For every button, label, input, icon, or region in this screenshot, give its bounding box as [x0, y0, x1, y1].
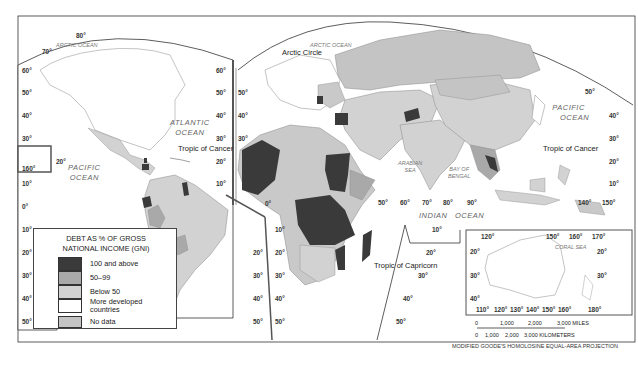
lon-160-label: 160°: [22, 165, 35, 172]
tropic-of-cancer-right: Tropic of Cancer: [543, 144, 598, 153]
legend-title: DEBT AS % OF GROSS NATIONAL INCOME (GNI): [34, 234, 178, 254]
lon-80: 80°: [443, 199, 453, 206]
projection-note: MODIFIED GOODE'S HOMOLOSINE EQUAL-AREA P…: [452, 343, 618, 349]
lat-midl-30: 30°: [216, 135, 226, 142]
arctic-circle-label: Arctic Circle: [282, 48, 322, 57]
lat-80-label: 80°: [76, 32, 86, 39]
lat-left-60: 60°: [22, 67, 32, 74]
arabian-line1: ARABIAN: [398, 160, 422, 167]
pacific-ocean-left-label: PACIFIC OCEAN: [68, 163, 101, 183]
indian-ocean-label-2: OCEAN: [455, 211, 484, 221]
lat-left-40: 40°: [22, 112, 32, 119]
scale-miles-3000: 3,000 MILES: [557, 320, 589, 326]
lat-africa-30s: 30°: [275, 272, 285, 279]
lat-midl-30s: 30°: [253, 272, 263, 279]
aus-lon-140: 140°: [526, 306, 539, 313]
pacific-left-line2: OCEAN: [68, 173, 101, 183]
lat-right-50: 50°: [585, 88, 595, 95]
lat-left-30s: 30°: [22, 272, 32, 279]
scale-km-0: 0: [475, 332, 478, 338]
legend-swatch-100-above: [58, 257, 82, 271]
coral-sea-label: CORAL SEA: [555, 244, 586, 251]
aus-lon-120-top: 120°: [481, 233, 494, 240]
bengal-line1: BAY OF: [448, 166, 470, 173]
lat-right-10: 10°: [609, 180, 619, 187]
pacific-right-line1: PACIFIC: [548, 103, 589, 113]
lat-midr-40: 40°: [238, 112, 248, 119]
legend-swatch-more-developed: [58, 299, 82, 313]
aus-lon-130: 130°: [510, 306, 523, 313]
aus-lon-170-top: 170°: [592, 233, 605, 240]
lat-midl-50: 50°: [216, 89, 226, 96]
lon-140: 140°: [578, 199, 591, 206]
legend-label-more-developed: More developed countries: [90, 298, 142, 314]
lat-left-30: 30°: [22, 135, 32, 142]
legend-label-50-99: 50–99: [90, 274, 110, 282]
indian-lat-50: 50°: [396, 318, 406, 325]
lat-africa-10s: 10°: [275, 226, 285, 233]
lat-africa-40s: 40°: [275, 295, 285, 302]
lat-20-pac: 20°: [56, 158, 66, 165]
aus-lon-180: 180°: [588, 306, 601, 313]
lat-midl-20: 20°: [216, 158, 226, 165]
lat-left-10s: 10°: [22, 226, 32, 233]
lat-midl-10: 10°: [216, 180, 226, 187]
aus-lat-20-right: 20°: [597, 248, 607, 255]
lat-africa-20s: 20°: [275, 249, 285, 256]
legend-swatch-no-data: [58, 316, 82, 328]
aus-lat-30-right: 30°: [597, 272, 607, 279]
lat-left-0: 0°: [22, 203, 28, 210]
lat-right-20: 20°: [609, 158, 619, 165]
lat-midr-50: 50°: [238, 89, 248, 96]
aus-lon-110: 110°: [476, 306, 489, 313]
aus-lon-150: 150°: [542, 306, 555, 313]
pacific-ocean-right-label: PACIFIC OCEAN: [548, 103, 589, 123]
aus-lon-160: 160°: [558, 306, 571, 313]
lat-left-10n: 10°: [22, 180, 32, 187]
aus-lat-20-left: 20°: [470, 248, 480, 255]
aus-lat-30-left: 30°: [470, 272, 480, 279]
legend-more-dev-line2: countries: [90, 306, 142, 314]
legend-title-line2: NATIONAL INCOME (GNI): [34, 244, 178, 254]
lat-midl-40s: 40°: [253, 295, 263, 302]
aus-lon-120: 120°: [494, 306, 507, 313]
pacific-left-line1: PACIFIC: [68, 163, 101, 173]
lat-midl-40: 40°: [216, 112, 226, 119]
lat-left-50s: 50°: [22, 318, 32, 325]
aus-lon-160-top: 160°: [569, 233, 582, 240]
lon-60: 60°: [400, 199, 410, 206]
scale-km-1000: 1,000: [485, 332, 499, 338]
lat-right-40: 40°: [609, 112, 619, 119]
legend-label-100-above: 100 and above: [90, 260, 138, 268]
legend-swatch-below-50: [58, 285, 82, 299]
lon-70: 70°: [422, 199, 432, 206]
bay-of-bengal-label: BAY OF BENGAL: [448, 166, 470, 180]
lat-right-30: 30°: [609, 135, 619, 142]
lat-africa-50s: 50°: [275, 318, 285, 325]
indian-ocean-label-1: INDIAN: [419, 211, 447, 221]
lon-150: 150°: [602, 199, 615, 206]
tropic-of-capricorn: Tropic of Capricorn: [374, 261, 438, 270]
scale-miles-1000: 1,000: [500, 320, 514, 326]
indian-lat-30: 30°: [418, 272, 428, 279]
zero-a: 0°: [265, 200, 271, 207]
indian-lat-40: 40°: [403, 295, 413, 302]
lat-70-label: 70°: [42, 48, 52, 55]
lat-midl-60: 60°: [216, 67, 226, 74]
atlantic-ocean-line1: ATLANTIC: [170, 118, 210, 128]
scale-km-2000: 2,000: [505, 332, 519, 338]
lon-50: 50°: [378, 199, 388, 206]
aus-lon-150-top: 150°: [546, 233, 559, 240]
atlantic-ocean-label: ATLANTIC OCEAN: [170, 118, 210, 138]
lat-left-40s: 40°: [22, 295, 32, 302]
legend-title-line1: DEBT AS % OF GROSS: [34, 234, 178, 244]
scale-miles-2000: 2,000: [528, 320, 542, 326]
legend-label-below-50: Below 50: [90, 288, 120, 296]
lon-90: 90°: [467, 199, 477, 206]
map-legend: DEBT AS % OF GROSS NATIONAL INCOME (GNI)…: [33, 228, 177, 329]
bengal-line2: BENGAL: [448, 173, 470, 180]
arabian-line2: SEA: [398, 167, 422, 174]
legend-label-no-data: No data: [90, 318, 116, 326]
legend-swatch-50-99: [58, 271, 82, 285]
scale-km-3000: 3,000 KILOMETERS: [524, 332, 575, 338]
